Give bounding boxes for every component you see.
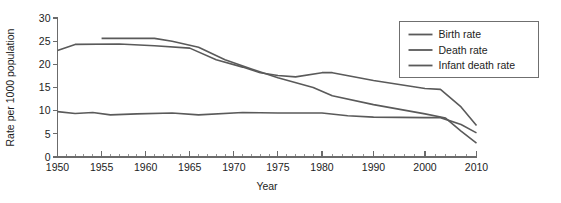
chart-figure: 051015202530 195019551960196519701975198… (0, 0, 561, 203)
legend-item-label: Birth rate (439, 28, 482, 40)
x-tick-label: 1960 (134, 161, 158, 173)
line-chart: 051015202530 195019551960196519701975198… (0, 0, 561, 203)
legend-item-label: Infant death rate (439, 59, 516, 71)
legend-item-label: Death rate (439, 44, 488, 56)
y-tick-label: 30 (39, 12, 51, 24)
x-axis-title: Year (256, 180, 278, 192)
x-tick-label: 1990 (362, 161, 386, 173)
x-tick-label: 1955 (90, 161, 114, 173)
y-axis-title: Rate per 1000 population (4, 28, 16, 146)
x-tick-label: 1970 (222, 161, 246, 173)
y-tick-label: 20 (39, 58, 51, 70)
x-tick-label: 1975 (266, 161, 290, 173)
chart-legend: Birth rateDeath rateInfant death rate (400, 22, 539, 78)
y-tick-label: 25 (39, 35, 51, 47)
y-tick-label: 5 (45, 128, 51, 140)
x-tick-label: 2010 (465, 161, 489, 173)
y-tick-label: 10 (39, 104, 51, 116)
x-tick-label: 1965 (178, 161, 202, 173)
x-tick-label: 1980 (310, 161, 334, 173)
x-tick-label: 2000 (413, 161, 437, 173)
x-tick-label: 1950 (46, 161, 70, 173)
y-tick-label: 15 (39, 81, 51, 93)
